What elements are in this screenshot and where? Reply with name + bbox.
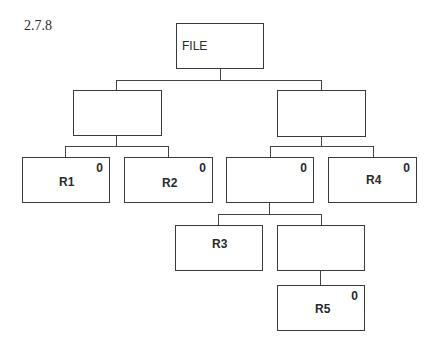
- node-label: R2: [162, 176, 177, 190]
- node-count: 0: [96, 161, 103, 175]
- node-count: 0: [351, 289, 358, 303]
- node-count: 0: [199, 161, 206, 175]
- node-left: [73, 90, 162, 136]
- connector: [168, 146, 169, 157]
- connector: [321, 136, 322, 146]
- connector: [218, 214, 321, 215]
- node-r1: R1 0: [22, 157, 110, 203]
- connector: [116, 80, 322, 81]
- node-file: FILE: [176, 23, 264, 69]
- connector: [218, 214, 219, 225]
- connector: [65, 146, 66, 157]
- node-label: R5: [315, 302, 330, 316]
- connector: [269, 202, 270, 214]
- connector: [270, 146, 373, 147]
- node-count: 0: [403, 161, 410, 175]
- node-label: R1: [59, 175, 74, 189]
- connector: [321, 80, 322, 90]
- connector: [321, 214, 322, 225]
- connector: [373, 146, 374, 157]
- connector: [116, 135, 117, 146]
- connector: [116, 80, 117, 90]
- connector: [270, 146, 271, 157]
- node-count: 0: [300, 161, 307, 175]
- node-label: R3: [212, 237, 227, 251]
- node-inner: 0: [226, 157, 314, 203]
- node-inner2: [277, 225, 365, 271]
- node-r5: R5 0: [277, 285, 365, 331]
- node-label: R4: [366, 173, 381, 187]
- node-r4: R4 0: [328, 157, 417, 203]
- node-label: FILE: [182, 39, 207, 53]
- connector: [220, 68, 221, 80]
- connector: [65, 146, 168, 147]
- node-r2: R2 0: [124, 157, 213, 203]
- node-right: [277, 90, 366, 137]
- connector: [320, 270, 321, 285]
- figure-caption: 2.7.8: [24, 18, 52, 34]
- node-r3: R3: [175, 225, 263, 271]
